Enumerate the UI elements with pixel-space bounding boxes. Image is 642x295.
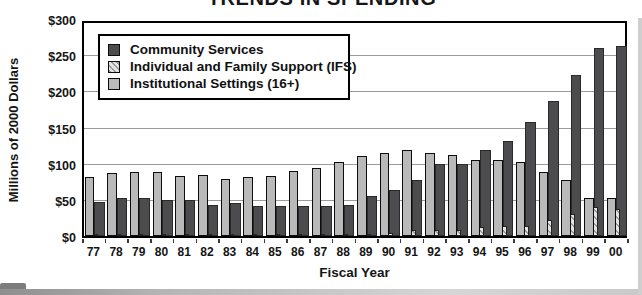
x-tick (559, 239, 561, 243)
x-category-label-89: 89 (355, 245, 378, 259)
legend-item-ifs: Individual and Family Support (IFS) (108, 58, 340, 75)
community-services-legend-swatch-icon (108, 44, 120, 56)
bar-community-services-90 (389, 190, 400, 236)
x-tick (196, 239, 198, 243)
legend-item-institutional: Institutional Settings (16+) (108, 75, 340, 92)
x-tick (309, 239, 311, 243)
bar-group-99 (584, 23, 607, 236)
bar-institutional-78 (107, 173, 117, 236)
bar-community-services-96 (525, 122, 536, 236)
bar-community-services-98 (571, 75, 582, 236)
scan-edge-artifact (0, 289, 642, 295)
bar-institutional-79 (130, 172, 140, 236)
scan-edge-artifact (638, 18, 642, 295)
ifs-legend-swatch-icon (108, 61, 120, 73)
bar-institutional-87 (312, 168, 322, 236)
bar-community-services-88 (344, 205, 355, 236)
x-tick (355, 239, 357, 243)
y-tick-label-250: $250 (4, 49, 76, 65)
x-category-label-97: 97 (536, 245, 559, 259)
bar-institutional-90 (380, 153, 390, 236)
x-category-label-81: 81 (173, 245, 196, 259)
bar-community-services-93 (457, 164, 468, 236)
bar-community-services-80 (162, 200, 173, 236)
y-tick-label-200: $200 (4, 85, 76, 101)
x-category-label-99: 99 (582, 245, 605, 259)
bar-institutional-92 (425, 153, 435, 236)
y-tick-label-50: $50 (4, 194, 76, 210)
bar-group-93 (447, 23, 470, 236)
x-category-label-82: 82 (196, 245, 219, 259)
x-tick (286, 239, 288, 243)
x-category-label-80: 80 (150, 245, 173, 259)
x-category-label-93: 93 (445, 245, 468, 259)
bar-group-97 (538, 23, 561, 236)
x-tick (377, 239, 379, 243)
bar-institutional-00 (607, 198, 617, 236)
bar-community-services-97 (548, 101, 559, 236)
bar-institutional-93 (448, 155, 458, 236)
x-category-label-95: 95 (491, 245, 514, 259)
x-tick (332, 239, 334, 243)
bar-institutional-81 (175, 176, 185, 236)
y-tick-label-300: $300 (4, 13, 76, 29)
x-category-label-83: 83 (218, 245, 241, 259)
x-tick (445, 239, 447, 243)
x-tick (264, 239, 266, 243)
x-tick (127, 239, 129, 243)
x-axis-title: Fiscal Year (82, 265, 627, 280)
bar-group-00 (606, 23, 629, 236)
x-tick (423, 239, 425, 243)
x-category-label-88: 88 (332, 245, 355, 259)
bar-institutional-85 (266, 176, 276, 236)
y-tick-label-150: $150 (4, 122, 76, 138)
bar-community-services-91 (412, 180, 423, 236)
bar-institutional-94 (471, 160, 481, 236)
bar-group-95 (493, 23, 516, 236)
x-tick (627, 239, 629, 243)
bar-community-services-89 (367, 196, 378, 236)
x-category-label-96: 96 (513, 245, 536, 259)
x-tick (582, 239, 584, 243)
bar-group-98 (561, 23, 584, 236)
legend: Community ServicesIndividual and Family … (98, 34, 350, 100)
chart-image: TRENDS IN SPENDING Millions of 2000 Doll… (0, 0, 642, 295)
institutional-legend-swatch-icon (108, 78, 120, 90)
legend-label: Individual and Family Support (IFS) (130, 59, 357, 74)
x-tick (105, 239, 107, 243)
x-category-label-87: 87 (309, 245, 332, 259)
bar-institutional-96 (516, 162, 526, 236)
bar-institutional-84 (243, 177, 253, 236)
bar-institutional-83 (221, 179, 231, 236)
x-category-label-94: 94 (468, 245, 491, 259)
bar-group-91 (402, 23, 425, 236)
plot-area: Community ServicesIndividual and Family … (82, 21, 627, 238)
bar-community-services-00 (616, 46, 627, 236)
bar-institutional-91 (402, 150, 412, 236)
bar-institutional-86 (289, 171, 299, 236)
bar-community-services-78 (117, 198, 128, 236)
x-tick (491, 239, 493, 243)
x-category-label-91: 91 (400, 245, 423, 259)
x-tick (241, 239, 243, 243)
bar-institutional-98 (561, 180, 571, 236)
x-tick (218, 239, 220, 243)
bar-community-services-94 (480, 150, 491, 236)
bar-group-89 (357, 23, 380, 236)
x-category-label-78: 78 (105, 245, 128, 259)
x-category-label-90: 90 (377, 245, 400, 259)
bar-group-94 (470, 23, 493, 236)
x-category-label-86: 86 (286, 245, 309, 259)
bar-community-services-92 (435, 164, 446, 236)
x-category-label-84: 84 (241, 245, 264, 259)
chart-title: TRENDS IN SPENDING (82, 0, 562, 9)
y-tick-label-100: $100 (4, 158, 76, 174)
x-tick (513, 239, 515, 243)
x-tick (173, 239, 175, 243)
bar-group-90 (379, 23, 402, 236)
legend-label: Community Services (130, 42, 264, 57)
x-tick (150, 239, 152, 243)
x-tick (604, 239, 606, 243)
y-tick-label-0: $0 (4, 230, 76, 246)
bar-community-services-77 (94, 202, 105, 236)
